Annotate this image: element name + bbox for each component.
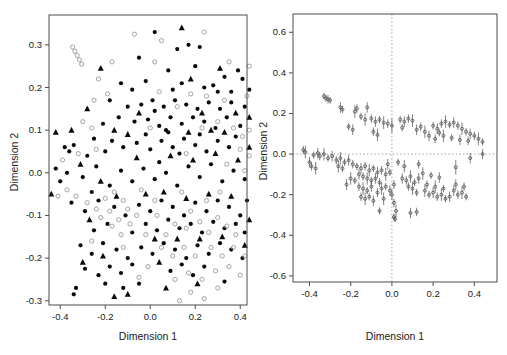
x-tick-label: 0.2 — [427, 288, 440, 299]
x-tick-label: 0.4 — [468, 288, 481, 299]
y-tick-label: -0.2 — [270, 189, 286, 200]
y-tick-label: 0.6 — [273, 26, 286, 37]
y-tick-label: -0.4 — [270, 229, 286, 240]
y-tick-label: -0.6 — [270, 270, 286, 281]
right-scatter-plot: -0.4-0.20.00.20.4-0.6-0.4-0.20.00.20.40.… — [0, 0, 507, 355]
x-tick-label: 0.0 — [385, 288, 398, 299]
right-yaxis-title: Dimension 2 — [257, 91, 269, 211]
x-tick-label: -0.2 — [343, 288, 359, 299]
x-tick-label: -0.4 — [301, 288, 317, 299]
left-yaxis-title: Dimension 2 — [8, 102, 20, 222]
y-tick-label: 0.0 — [273, 148, 286, 159]
y-tick-label: 0.4 — [273, 67, 286, 78]
right-xaxis-title: Dimension 1 — [293, 330, 497, 342]
y-tick-label: 0.2 — [273, 107, 286, 118]
figure: -0.4-0.20.00.20.4-0.3-0.2-0.10.00.10.20.… — [0, 0, 507, 355]
left-xaxis-title: Dimension 1 — [49, 330, 247, 342]
